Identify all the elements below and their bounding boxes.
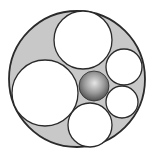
inner-circle-right-upper xyxy=(106,49,142,85)
central-sphere xyxy=(79,71,109,101)
circle-packing-diagram xyxy=(0,0,150,155)
inner-circle-bottom xyxy=(68,103,112,147)
inner-circle-right-lower xyxy=(106,86,138,118)
inner-circle-left-large xyxy=(12,60,78,126)
inner-circle-top xyxy=(54,11,112,69)
